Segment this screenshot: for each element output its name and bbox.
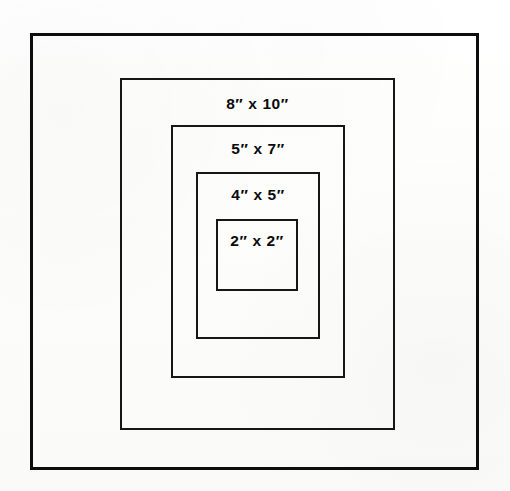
opening-rect-2x2[interactable]: 2″ x 2″ [216,219,298,291]
size-label-5x7: 5″ x 7″ [173,141,343,157]
size-label-4x5: 4″ x 5″ [198,187,318,203]
diagram-canvas: 8″ x 10″ 5″ x 7″ 4″ x 5″ 2″ x 2″ [0,0,510,491]
size-label-8x10: 8″ x 10″ [122,96,393,112]
size-label-2x2: 2″ x 2″ [218,233,296,249]
